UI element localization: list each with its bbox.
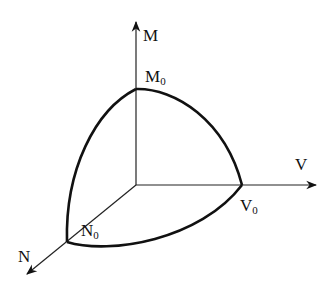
m0-label: M0 — [145, 67, 166, 87]
curve-m0-v0 — [136, 89, 242, 185]
interaction-surface-diagram: M V N M0 V0 N0 — [0, 0, 332, 291]
m-axis-label: M — [143, 26, 158, 45]
v-axis-label: V — [295, 155, 308, 174]
n-axis-label: N — [18, 247, 30, 266]
n0-label: N0 — [81, 221, 99, 241]
curve-m0-n0 — [67, 89, 136, 242]
v0-label: V0 — [240, 196, 258, 216]
